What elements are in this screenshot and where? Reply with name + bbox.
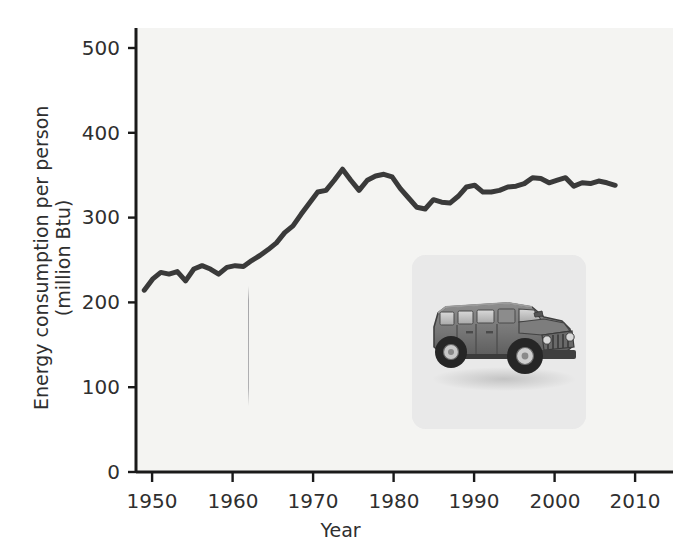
x-tick-label-1970: 1970 (278, 489, 348, 513)
y-tick-label-100: 100 (68, 375, 120, 399)
x-tick-label-1980: 1980 (359, 489, 429, 513)
y-axis-title-line1: Energy consumption per person (31, 93, 53, 423)
y-tick-label-200: 200 (68, 290, 120, 314)
y-tick-label-300: 300 (68, 205, 120, 229)
y-axis-title: Energy consumption per person (million B… (31, 93, 75, 423)
chart-figure: 0 100 200 300 400 500 1950 1960 1970 198… (0, 0, 681, 557)
data-line-energy-per-person (144, 169, 615, 290)
x-tick-label-2000: 2000 (520, 489, 590, 513)
x-tick-label-2010: 2010 (600, 489, 670, 513)
y-tick-label-0: 0 (78, 460, 120, 484)
x-axis-title: Year (0, 519, 681, 541)
x-tick-label-1960: 1960 (198, 489, 268, 513)
y-tick-label-400: 400 (68, 121, 120, 145)
x-tick-label-1990: 1990 (439, 489, 509, 513)
y-tick-label-500: 500 (68, 36, 120, 60)
x-tick-label-1950: 1950 (117, 489, 187, 513)
y-axis-title-line2: (million Btu) (53, 93, 75, 423)
